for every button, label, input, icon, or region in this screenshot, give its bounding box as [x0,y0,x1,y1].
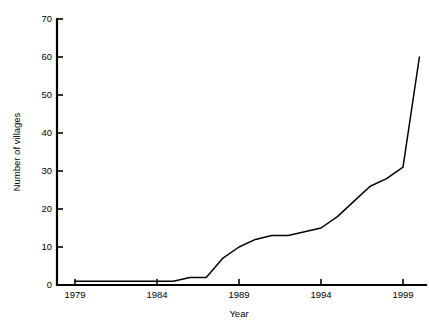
y-tick-label: 40 [41,127,52,138]
y-tick-label: 20 [41,203,52,214]
y-tick-label: 60 [41,51,52,62]
y-axis-tick-labels: 70 60 50 40 30 20 10 0 [41,13,52,290]
y-tick-label: 10 [41,241,52,252]
x-tick-label: 1979 [64,289,85,300]
y-tick-label: 50 [41,89,52,100]
x-tick-label: 1994 [310,289,331,300]
y-tick-label: 0 [47,279,52,290]
y-axis-title: Number of villages [11,112,22,191]
chart-figure: 70 60 50 40 30 20 10 0 1979 1984 1989 19… [0,0,429,331]
data-series-line [75,57,419,281]
x-axis-tick-labels: 1979 1984 1989 1994 1999 [64,289,413,300]
x-tick-label: 1989 [228,289,249,300]
y-tick-label: 30 [41,165,52,176]
x-axis-title: Year [229,308,248,319]
y-tick-label: 70 [41,13,52,24]
line-chart: 70 60 50 40 30 20 10 0 1979 1984 1989 19… [0,0,429,331]
x-tick-label: 1999 [392,289,413,300]
x-tick-label: 1984 [146,289,167,300]
